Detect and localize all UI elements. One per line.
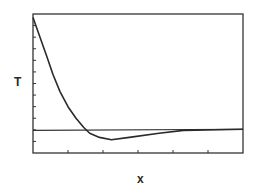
x-axis-label: x [137,172,144,186]
chart: T x [0,0,256,192]
series-line-T [33,18,243,140]
y-axis-label: T [14,75,22,89]
plot-frame [33,14,243,153]
